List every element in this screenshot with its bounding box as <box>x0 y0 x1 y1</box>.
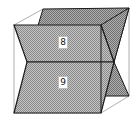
cube-diagram <box>0 0 138 122</box>
plane-label-9: 9 <box>58 76 68 89</box>
plane-label-8: 8 <box>58 36 68 49</box>
